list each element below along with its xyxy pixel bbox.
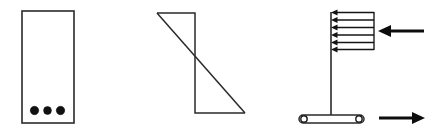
- diagram-canvas: [0, 0, 434, 133]
- load-arrow-1: [331, 10, 374, 16]
- base-bar: [299, 115, 364, 123]
- bolt-dot-2: [44, 107, 52, 115]
- load-arrow-3: [331, 25, 374, 31]
- bolt-dot-3: [56, 106, 64, 114]
- load-arrow-2: [331, 17, 374, 23]
- roller-right-icon: [356, 116, 362, 122]
- load-arrow-4: [331, 32, 374, 38]
- figure-sheet: [0, 0, 434, 133]
- panel-loaded-mast-on-rollers: [299, 10, 425, 124]
- load-arrow-6: [331, 47, 374, 53]
- distributed-load-arrows: [331, 10, 374, 53]
- roller-left-icon: [301, 116, 307, 122]
- upper-applied-force-arrow: [378, 25, 424, 37]
- panel-rectangular-plate-with-bolts: [22, 11, 74, 123]
- load-arrow-5: [331, 40, 374, 46]
- panel-z-shaped-shear-diagram: [157, 13, 245, 113]
- plate-outline: [22, 11, 74, 123]
- lower-reaction-force-arrow: [379, 112, 425, 124]
- bolt-dot-1: [30, 106, 38, 114]
